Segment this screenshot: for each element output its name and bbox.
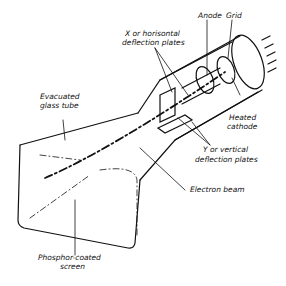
phosphor-screen — [18, 145, 140, 248]
label-phosphor-2: screen — [60, 263, 85, 271]
label-phosphor-1: Phosphor-coated — [38, 254, 101, 262]
x-deflection-plates — [160, 88, 175, 122]
label-x-plates-1: X or horisontal — [125, 30, 180, 38]
label-anode: Anode — [198, 12, 222, 20]
label-x-plates-2: deflection plates — [122, 39, 185, 47]
label-y-plates-2: deflection plates — [195, 156, 258, 164]
label-y-plates-1: Y or vertical — [203, 146, 248, 154]
y-deflection-plates — [158, 115, 192, 133]
label-heated-cathode-2: cathode — [227, 123, 257, 131]
label-evacuated-2: glass tube — [40, 102, 79, 110]
label-grid: Grid — [226, 12, 242, 20]
label-evacuated-1: Evacuated — [40, 93, 80, 101]
label-heated-cathode-1: Heated — [229, 114, 256, 122]
label-electron-beam: Electron beam — [190, 186, 245, 194]
